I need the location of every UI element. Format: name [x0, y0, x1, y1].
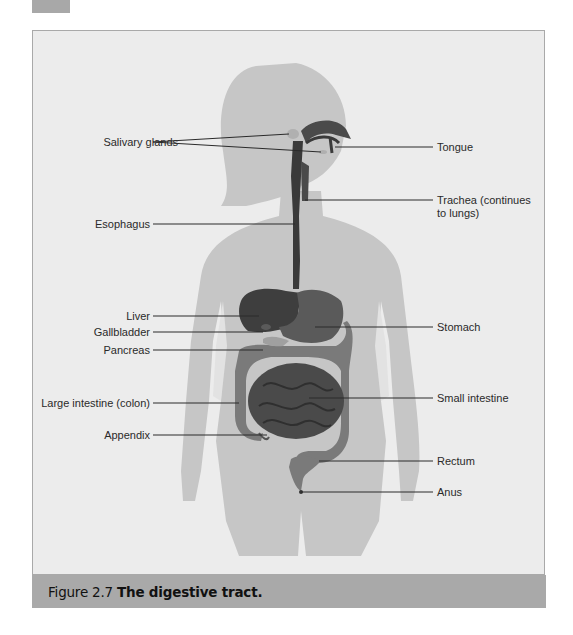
label-tongue: Tongue — [437, 141, 473, 154]
label-rectum: Rectum — [437, 455, 475, 468]
label-esophagus: Esophagus — [32, 218, 150, 231]
page-number-tab — [32, 0, 70, 13]
label-stomach: Stomach — [437, 321, 480, 334]
figure-frame: Salivary glands Esophagus Liver Gallblad… — [32, 30, 545, 575]
figure-title: The digestive tract. — [117, 584, 262, 600]
figure-caption: Figure 2.7The digestive tract. — [48, 584, 262, 600]
label-trachea: Trachea (continues to lungs) — [437, 194, 532, 220]
label-large-intestine: Large intestine (colon) — [32, 397, 150, 410]
label-small-intestine: Small intestine — [437, 392, 509, 405]
label-salivary-glands: Salivary glands — [38, 136, 178, 149]
label-anus: Anus — [437, 486, 462, 499]
figure-caption-band: Figure 2.7The digestive tract. — [32, 575, 546, 608]
figure-number: Figure 2.7 — [48, 584, 113, 600]
label-appendix: Appendix — [32, 429, 150, 442]
label-pancreas: Pancreas — [32, 344, 150, 357]
label-liver: Liver — [32, 310, 150, 323]
digestive-tract-illustration — [33, 31, 545, 575]
label-gallbladder: Gallbladder — [32, 326, 150, 339]
